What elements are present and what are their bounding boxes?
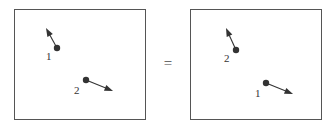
left-panel-frame xyxy=(14,9,146,120)
left-particle-2-label: 2 xyxy=(74,85,80,96)
left-particle-1-label: 1 xyxy=(46,51,52,62)
equals-sign: = xyxy=(158,52,178,74)
right-particle-2-label: 2 xyxy=(224,53,230,64)
particle-equivalence-figure: = 1 2 2 1 xyxy=(0,0,336,128)
right-particle-1-label: 1 xyxy=(255,88,261,99)
right-panel-frame xyxy=(190,9,322,120)
